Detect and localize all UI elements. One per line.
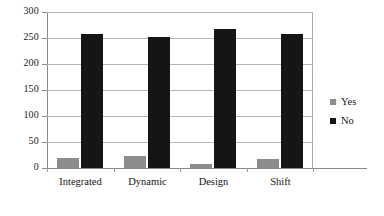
bar-integrated-yes: [57, 158, 79, 168]
bar-shift-yes: [257, 159, 279, 168]
bar-design-no: [214, 29, 236, 168]
y-axis-tick: [42, 116, 47, 117]
bar-design-yes: [190, 164, 212, 168]
y-axis-tick: [42, 90, 47, 91]
legend-swatch-icon: [330, 99, 336, 105]
y-axis-tick-label: 300: [3, 6, 39, 16]
x-axis-line: [47, 168, 367, 169]
x-axis-label-shift: Shift: [247, 176, 314, 188]
y-axis-tick: [42, 142, 47, 143]
category-separator: [47, 168, 48, 172]
bar-dynamic-no: [148, 37, 170, 168]
gridline: [47, 12, 313, 13]
x-axis-label-integrated: Integrated: [47, 176, 114, 188]
legend-item-yes[interactable]: Yes: [330, 92, 382, 111]
y-axis-tick-label: 250: [3, 32, 39, 42]
category-separator: [180, 168, 181, 172]
y-axis-tick-label: 100: [3, 110, 39, 120]
category-separator: [313, 168, 314, 172]
bar-chart-figure: 050100150200250300 IntegratedDynamicDesi…: [0, 0, 384, 216]
y-axis-tick: [42, 38, 47, 39]
category-separator: [247, 168, 248, 172]
y-axis-tick: [42, 12, 47, 13]
legend-item-no[interactable]: No: [330, 111, 382, 130]
y-axis-tick-label: 0: [3, 162, 39, 172]
bar-dynamic-yes: [124, 156, 146, 168]
y-axis-tick-label: 200: [3, 58, 39, 68]
y-axis-tick-label: 50: [3, 136, 39, 146]
bar-shift-no: [281, 34, 303, 168]
y-axis-tick-label: 150: [3, 84, 39, 94]
x-axis-label-dynamic: Dynamic: [114, 176, 181, 188]
x-axis-label-design: Design: [180, 176, 247, 188]
category-separator: [114, 168, 115, 172]
legend-label: No: [341, 115, 354, 126]
legend: YesNo: [330, 92, 382, 130]
bar-integrated-no: [81, 34, 103, 168]
y-axis-tick: [42, 64, 47, 65]
legend-label: Yes: [341, 96, 356, 107]
legend-swatch-icon: [330, 118, 336, 124]
